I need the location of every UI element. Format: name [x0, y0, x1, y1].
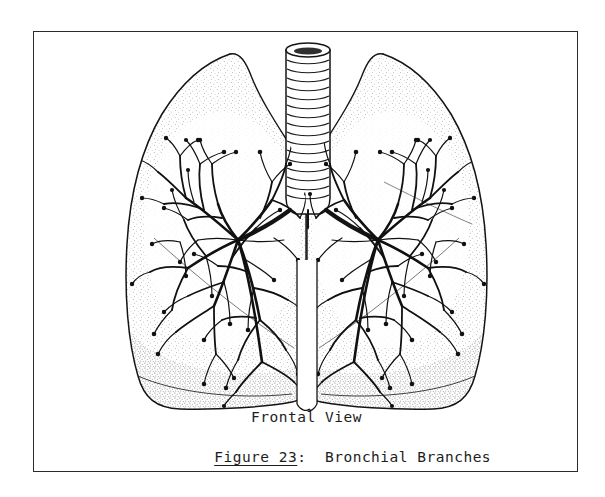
lung-illustration	[34, 32, 579, 412]
figure-page: Frontal View Figure 23: Bronchial Branch…	[0, 0, 605, 497]
trachea-lumen-shadow	[294, 47, 322, 54]
caption-gap	[307, 449, 325, 465]
figure-caption: Figure 23: Bronchial Branches	[34, 430, 579, 484]
left-lung	[126, 54, 306, 409]
mediastinal-gap	[297, 260, 317, 412]
figure-title: Bronchial Branches	[325, 449, 491, 465]
trachea	[286, 43, 330, 214]
figure-colon: :	[297, 449, 306, 465]
caption-block: Frontal View Figure 23: Bronchial Branch…	[34, 408, 579, 484]
figure-area: Frontal View Figure 23: Bronchial Branch…	[34, 32, 579, 473]
right-lung	[307, 54, 487, 409]
plate-frame: Frontal View Figure 23: Bronchial Branch…	[33, 31, 578, 472]
view-label: Frontal View	[34, 408, 579, 426]
figure-number: Figure 23	[214, 449, 297, 465]
